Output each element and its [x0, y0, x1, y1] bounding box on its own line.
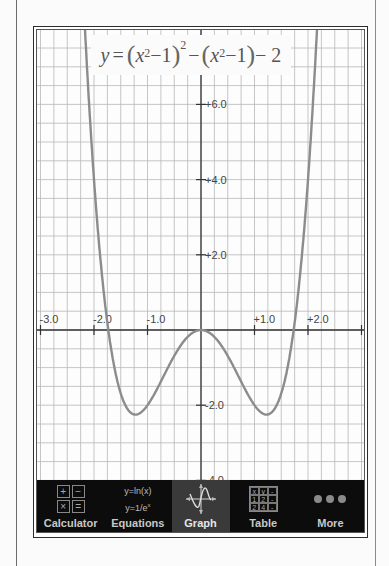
calc-key-equals: = — [72, 500, 85, 513]
eq-paren-close: ) — [172, 42, 181, 68]
x-tick-label: +2.0 — [307, 313, 329, 325]
table-icon: x y - 1 2 - 2 4 - — [249, 482, 278, 516]
table-icon-cell: 2 — [259, 495, 268, 503]
tab-equations[interactable]: y=ln(x) y=1/ex Equations — [104, 480, 171, 532]
tab-label: Equations — [111, 517, 164, 529]
eq-minus-mid: − — [188, 44, 199, 67]
calc-key-times: × — [57, 500, 70, 513]
equations-icon-sup: x — [148, 502, 151, 508]
calculator-icon: + − × = — [57, 482, 85, 516]
calc-key-minus: − — [72, 485, 85, 498]
tab-calculator[interactable]: + − × = Calculator — [37, 480, 104, 532]
y-tick-label: +6.0 — [205, 98, 227, 110]
eq-y: y — [101, 44, 110, 67]
eq-paren-close-2: ) — [246, 42, 255, 68]
tab-label: Table — [249, 517, 277, 529]
tab-label: Calculator — [44, 517, 98, 529]
equations-icon: y=ln(x) y=1/ex — [124, 482, 151, 516]
calc-key-plus: + — [57, 485, 70, 498]
table-icon-cell: 1 — [250, 495, 259, 503]
x-tick-label: -2.0 — [93, 313, 112, 325]
equation-label: y = ( x2 −1 )2 − ( x2 −1 ) − 2 — [91, 35, 291, 75]
more-dots-icon — [314, 482, 346, 516]
graph-canvas[interactable]: -3.0-2.0-1.0+1.0+2.0+6.0+4.0+2.0-2.0-4.0 — [37, 30, 365, 533]
x-tick-label: -3.0 — [40, 313, 59, 325]
table-icon-cell: y — [259, 487, 268, 495]
table-icon-cell: 2 — [250, 503, 259, 511]
equations-icon-line1: y=ln(x) — [124, 484, 151, 498]
equations-icon-line2: y=1/e — [125, 503, 147, 513]
x-tick-label: -1.0 — [147, 313, 166, 325]
x-tick-label: +1.0 — [254, 313, 276, 325]
tab-more[interactable]: More — [297, 480, 364, 532]
eq-minus2: −1 — [225, 44, 246, 67]
table-icon-cell: - — [268, 503, 277, 511]
table-icon-cell: x — [250, 487, 259, 495]
tab-label: Graph — [184, 517, 216, 529]
eq-x1: x — [135, 44, 144, 67]
eq-sup2: 2 — [219, 46, 225, 61]
table-icon-cell: - — [268, 487, 277, 495]
table-icon-cell: - — [268, 495, 277, 503]
table-icon-cell: 4 — [259, 503, 268, 511]
page-rule-left — [16, 0, 17, 566]
tab-label: More — [317, 517, 343, 529]
eq-sup1: 2 — [144, 46, 150, 61]
graph-screen: -3.0-2.0-1.0+1.0+2.0+6.0+4.0+2.0-2.0-4.0… — [36, 29, 365, 533]
tab-table[interactable]: x y - 1 2 - 2 4 - Table — [230, 480, 297, 532]
y-tick-label: +2.0 — [205, 249, 227, 261]
y-tick-label: -2.0 — [205, 399, 224, 411]
eq-minus1: −1 — [150, 44, 171, 67]
eq-outer-sup: 2 — [180, 38, 186, 53]
eq-paren-open-2: ( — [202, 42, 211, 68]
eq-tail: − 2 — [255, 44, 281, 67]
tab-graph[interactable]: Graph — [172, 480, 230, 532]
device-frame: -3.0-2.0-1.0+1.0+2.0+6.0+4.0+2.0-2.0-4.0… — [33, 26, 368, 538]
y-tick-label: +4.0 — [205, 174, 227, 186]
page-rule-right — [375, 0, 376, 566]
eq-x2: x — [210, 44, 219, 67]
bottom-tab-bar: + − × = Calculator y=ln(x) y=1/ex Equati… — [37, 480, 364, 532]
eq-equals: = — [113, 44, 124, 67]
graph-icon — [183, 482, 219, 516]
